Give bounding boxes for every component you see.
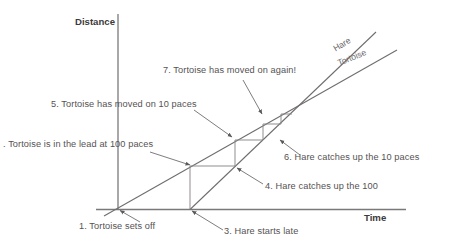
- leader-to-2: [150, 152, 190, 165]
- leader-to-4: [237, 168, 263, 184]
- annotation-2: . Tortoise is in the lead at 100 paces: [3, 140, 153, 149]
- annotation-1: 1. Tortoise sets off: [79, 222, 155, 231]
- annotation-6: 6. Hare catches up the 10 paces: [284, 153, 419, 162]
- diagram-canvas: [0, 0, 457, 248]
- leader-to-5: [194, 110, 232, 137]
- annotation-7: 7. Tortoise has moved on again!: [163, 66, 296, 75]
- x-axis-title: Time: [364, 213, 386, 223]
- annotation-3: 3. Hare starts late: [224, 227, 298, 236]
- annotation-4: 4. Hare catches up the 100: [265, 182, 378, 191]
- annotation-5: 5. Tortoise has moved on 10 paces: [51, 100, 197, 109]
- y-axis-title: Distance: [75, 17, 115, 27]
- distance-time-diagram: Distance Time Hare Tortoise 1. Tortoise …: [0, 0, 457, 248]
- leader-to-3: [192, 211, 223, 230]
- leader-to-7: [243, 80, 262, 114]
